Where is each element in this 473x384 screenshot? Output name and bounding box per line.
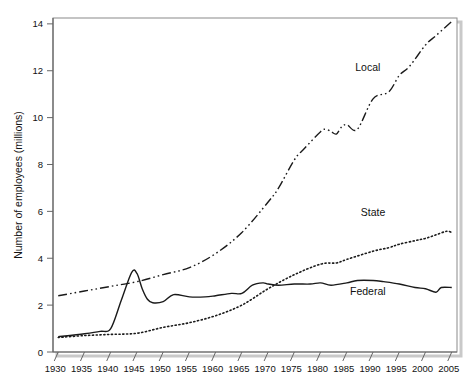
x-tick-label: 1985 [333,363,354,374]
y-tick-label: 14 [32,18,43,29]
series-label-local: Local [355,61,380,73]
x-tick-label: 1960 [202,363,223,374]
x-tick-label: 2005 [438,363,459,374]
y-tick-label: 12 [32,65,43,76]
chart-container: 02468101214 1930193519401945195019551960… [0,0,473,384]
x-tick-label: 1930 [45,363,66,374]
y-axis-ticks: 02468101214 [32,18,53,357]
y-tick-label: 4 [38,253,43,264]
y-tick-label: 0 [38,347,43,358]
x-tick-label: 2000 [412,363,433,374]
x-tick-label: 1945 [123,363,144,374]
x-tick-label: 1980 [307,363,328,374]
x-tick-label: 1995 [386,363,407,374]
x-tick-label: 1950 [150,363,171,374]
x-tick-label: 1970 [255,363,276,374]
x-tick-label: 1990 [359,363,380,374]
plot-frame [53,18,457,352]
y-axis-title: Number of employees (millions) [12,111,24,259]
y-tick-label: 10 [32,112,43,123]
x-tick-label: 1975 [281,363,302,374]
y-tick-label: 8 [38,159,43,170]
series-label-state: State [361,206,386,218]
x-tick-label: 1955 [176,363,197,374]
y-tick-label: 6 [38,206,43,217]
x-tick-label: 1965 [228,363,249,374]
employment-line-chart: 02468101214 1930193519401945195019551960… [0,0,473,384]
x-tick-label: 1940 [97,363,118,374]
x-tick-label: 1935 [71,363,92,374]
y-tick-label: 2 [38,300,43,311]
series-label-federal: Federal [350,285,386,297]
